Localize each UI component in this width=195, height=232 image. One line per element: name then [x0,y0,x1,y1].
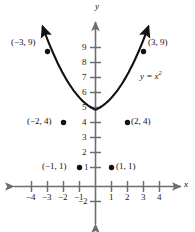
parabola-graph-figure: y x y = x2 −4 −3 −2 −1 1 2 3 4 9 8 7 6 5… [0,0,195,232]
data-point-marker [61,120,66,125]
y-tick-label: 9 [82,43,87,52]
y-tick-label: −2 [78,197,88,206]
point-label-2-4: (2, 4) [131,117,151,126]
equation-base: y = x [140,71,159,81]
data-point-marker [109,165,114,170]
x-tick-label: −3 [42,193,52,202]
x-tick-label: −4 [26,193,36,202]
x-tick-label: 4 [157,193,162,202]
data-point-marker [77,165,82,170]
data-point-marker [125,120,130,125]
y-tick-label: 2 [82,148,87,157]
y-axis-label: y [95,2,99,11]
point-label-neg3-9: (−3, 9) [11,38,36,47]
y-tick-label: 8 [82,58,87,67]
x-tick-label: 1 [109,193,114,202]
y-tick-label: 6 [82,88,87,97]
point-label-1-1: (1, 1) [116,162,136,171]
data-point-marker [45,49,50,54]
y-tick-label: 5 [82,103,87,112]
x-tick-label: 2 [125,193,130,202]
x-axis-label: x [184,180,188,189]
y-tick-label: 4 [82,118,87,127]
x-tick-label: −2 [58,193,68,202]
equation-exponent: 2 [159,69,162,76]
point-label-3-9: (3, 9) [148,38,168,47]
curve-left-arrowhead [43,27,45,32]
curve-right-arrowhead [147,27,149,32]
y-tick-label: 7 [82,73,87,82]
equation-label: y = x2 [140,72,162,81]
y-tick-label: 1 [84,163,89,172]
data-point-marker [141,49,146,54]
y-tick-label: 3 [82,133,87,142]
point-label-neg1-1: (−1, 1) [42,162,67,171]
x-tick-label: 3 [141,193,146,202]
point-label-neg2-4: (−2, 4) [27,117,52,126]
